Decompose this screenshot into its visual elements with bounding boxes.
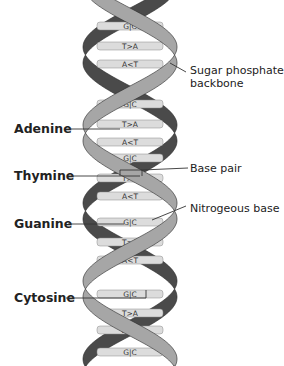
label-sugar-phosphate-line2: backbone (190, 77, 244, 90)
base-pair-label: G|C (123, 348, 137, 357)
base-pair-label: T>A (121, 120, 139, 129)
base-pair-label: A<T (122, 192, 138, 201)
base-pair-label: A<T (122, 138, 138, 147)
label-cytosine: Cytosine (14, 290, 75, 305)
label-sugar-phosphate-line1: Sugar phosphate (190, 64, 284, 77)
base-pair-rung: A<T (97, 138, 163, 147)
base-pair-rung: A<T (97, 60, 163, 69)
base-pair-label: G|C (123, 218, 137, 227)
base-pair-rung: T>A (97, 42, 163, 51)
base-pair-rung: A<T (97, 192, 163, 201)
base-pair-label: A<T (122, 60, 138, 69)
base-pair-label: T>A (121, 42, 139, 51)
label-thymine: Thymine (14, 168, 74, 183)
base-pair-rung: T>A (97, 120, 163, 129)
base-pair-rung: G|C (97, 348, 163, 357)
dna-diagram: G|CT>AA<TG|CT>AA<TG|CT>AA<TG|CT>AA<TG|CT… (0, 0, 284, 366)
double-helix: G|CT>AA<TG|CT>AA<TG|CT>AA<TG|CT>AA<TG|CT… (83, 0, 177, 366)
label-adenine: Adenine (14, 121, 72, 136)
label-nitrogenous-base: Nitrogeous base (190, 202, 280, 215)
label-base-pair: Base pair (190, 162, 242, 175)
label-guanine: Guanine (14, 216, 72, 231)
